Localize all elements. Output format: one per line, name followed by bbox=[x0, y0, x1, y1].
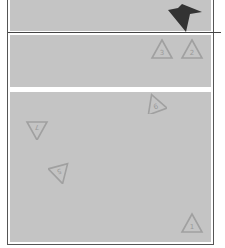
triangle-piece-6[interactable]: 6 bbox=[143, 92, 167, 114]
triangle-piece-3[interactable]: 3 bbox=[150, 38, 174, 60]
triangle-piece-2[interactable]: 2 bbox=[180, 38, 204, 60]
triangle-piece-1[interactable]: 1 bbox=[180, 212, 204, 234]
svg-text:5: 5 bbox=[56, 167, 62, 176]
triangle-piece-7[interactable]: 7 bbox=[25, 118, 49, 140]
svg-text:1: 1 bbox=[190, 223, 194, 231]
svg-text:6: 6 bbox=[153, 102, 160, 111]
down-arrow-icon[interactable] bbox=[168, 4, 202, 36]
triangle-piece-5[interactable]: 5 bbox=[48, 162, 72, 184]
svg-text:7: 7 bbox=[35, 123, 39, 131]
svg-text:2: 2 bbox=[190, 49, 194, 57]
svg-text:3: 3 bbox=[160, 49, 164, 57]
